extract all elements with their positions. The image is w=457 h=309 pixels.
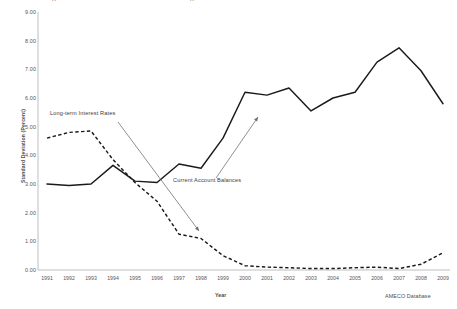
series-line-current-account-balances xyxy=(47,48,443,186)
arrow-head-current-account-balances xyxy=(254,117,258,122)
plot-area xyxy=(0,0,457,309)
series-line-long-term-interest-rates xyxy=(47,131,443,269)
axes xyxy=(38,12,450,270)
arrow-head-long-term-interest-rates xyxy=(195,226,199,231)
chart-figure: g g Standard Deviation (Percent) 0.001.0… xyxy=(0,0,457,309)
arrow-line-current-account-balances xyxy=(216,117,258,178)
annotation-arrows xyxy=(118,117,258,231)
